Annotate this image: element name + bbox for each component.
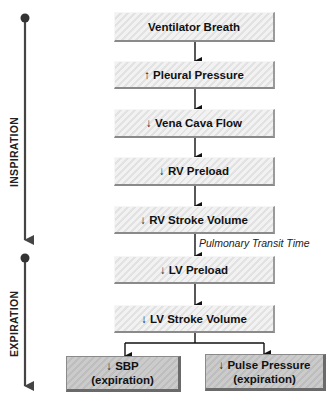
outcome-pulse-pressure: ↓ Pulse Pressure (expiration) [205, 354, 326, 391]
flow-step-label: ↑ Pleural Pressure [144, 68, 244, 82]
inspiration-start-dot [21, 14, 30, 23]
timeline [21, 14, 30, 387]
outcome-title: ↓ SBP [106, 359, 139, 373]
outcome-sbp: ↓ SBP (expiration) [66, 356, 181, 392]
connector-arrows [0, 0, 332, 400]
flow-step-label: ↓ RV Stroke Volume [140, 213, 248, 227]
flow-step-pleural-pressure: ↑ Pleural Pressure [114, 61, 275, 89]
expiration-start-dot [21, 254, 30, 263]
flow-step-label: ↓ Vena Cava Flow [146, 116, 242, 130]
flow-step-lv-preload: ↓ LV Preload [114, 256, 275, 284]
flow-step-label: ↓ LV Stroke Volume [141, 312, 247, 326]
ventilation-hemodynamics-diagram: INSPIRATION EXPIRATION Ventilator Breath… [0, 0, 332, 400]
outcome-subtitle: (expiration) [91, 373, 154, 387]
flow-step-lv-stroke-volume: ↓ LV Stroke Volume [114, 305, 275, 333]
flow-step-label: ↓ RV Preload [159, 164, 229, 178]
outcome-title: ↓ Pulse Pressure [218, 358, 310, 372]
flow-step-label: ↓ LV Preload [160, 263, 228, 277]
flow-step-rv-stroke-volume: ↓ RV Stroke Volume [114, 206, 275, 234]
flow-step-ventilator-breath: Ventilator Breath [114, 12, 275, 42]
flow-step-label: Ventilator Breath [148, 20, 240, 34]
flow-step-rv-preload: ↓ RV Preload [114, 157, 275, 186]
flow-step-vena-cava-flow: ↓ Vena Cava Flow [114, 109, 275, 138]
pulmonary-transit-time-annotation: Pulmonary Transit Time [199, 237, 310, 249]
inspiration-label: INSPIRATION [8, 117, 20, 187]
expiration-label: EXPIRATION [8, 291, 20, 357]
outcome-subtitle: (expiration) [233, 372, 296, 386]
